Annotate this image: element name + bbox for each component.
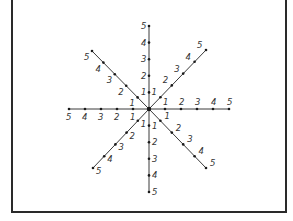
tick-label-south-east-3: 3 — [187, 134, 192, 144]
tick-dot-north-west-2 — [125, 85, 128, 88]
tick-dot-south-1 — [148, 124, 151, 127]
tick-label-south-west-4: 4 — [107, 154, 112, 164]
tick-label-east-3: 3 — [195, 97, 200, 107]
tick-label-east-1: 1 — [163, 97, 168, 107]
tick-dot-north-1 — [148, 91, 151, 94]
tick-dot-east-5 — [228, 108, 231, 111]
tick-label-south-4: 4 — [152, 170, 157, 180]
tick-dot-north-west-3 — [114, 73, 117, 76]
tick-label-west-2: 2 — [114, 112, 119, 122]
tick-dot-north-4 — [148, 41, 151, 44]
tick-label-north-east-5: 5 — [197, 40, 202, 50]
ray-south-east — [149, 109, 206, 168]
tick-dot-north-east-1 — [159, 96, 162, 99]
tick-label-north-2: 2 — [141, 71, 146, 81]
tick-dot-south-5 — [148, 191, 151, 194]
tick-dot-north-west-5 — [91, 50, 94, 53]
tick-label-west-1: 1 — [130, 112, 135, 122]
tick-label-north-5: 5 — [141, 21, 146, 31]
tick-label-north-west-3: 3 — [107, 75, 112, 85]
tick-label-east-4: 4 — [211, 97, 216, 107]
tick-label-north-west-1: 1 — [130, 98, 135, 108]
tick-label-south-west-5: 5 — [96, 166, 101, 176]
tick-label-north-3: 3 — [141, 54, 146, 64]
tick-dot-south-east-2 — [171, 131, 174, 134]
tick-label-west-5: 5 — [66, 112, 71, 122]
tick-label-east-5: 5 — [227, 97, 232, 107]
tick-dot-south-4 — [148, 174, 151, 177]
origin-dot — [147, 107, 151, 111]
tick-dot-south-west-4 — [103, 155, 106, 158]
tick-dot-north-3 — [148, 58, 151, 61]
tick-label-south-5: 5 — [152, 187, 157, 197]
tick-dot-west-5 — [68, 108, 71, 111]
tick-label-east-2: 2 — [179, 97, 184, 107]
tick-label-north-east-1: 1 — [151, 87, 156, 97]
tick-label-south-east-5: 5 — [210, 158, 215, 168]
tick-label-south-1: 1 — [152, 121, 157, 131]
tick-label-south-east-1: 1 — [164, 111, 169, 121]
tick-label-south-west-1: 1 — [141, 119, 146, 129]
tick-dot-south-3 — [148, 158, 151, 161]
tick-dot-south-east-1 — [159, 120, 162, 123]
number-star-diagram: 1234512345123451234512345123451234512345 — [0, 0, 293, 221]
tick-dot-north-east-5 — [205, 49, 208, 52]
tick-dot-east-3 — [196, 108, 199, 111]
tick-dot-south-east-4 — [193, 155, 196, 158]
tick-label-south-west-2: 2 — [130, 131, 135, 141]
tick-label-south-3: 3 — [152, 154, 157, 164]
tick-dot-west-3 — [100, 108, 103, 111]
tick-label-west-3: 3 — [98, 112, 103, 122]
tick-dot-south-west-1 — [137, 120, 140, 123]
tick-dot-north-east-4 — [193, 61, 196, 64]
tick-label-north-west-5: 5 — [84, 52, 89, 62]
tick-dot-east-4 — [212, 108, 215, 111]
tick-dot-north-east-3 — [182, 72, 185, 75]
tick-dot-north-west-1 — [136, 96, 139, 99]
tick-dot-north-west-4 — [102, 61, 105, 64]
tick-label-south-east-2: 2 — [176, 123, 181, 133]
tick-label-north-east-2: 2 — [163, 75, 168, 85]
tick-label-north-east-4: 4 — [186, 52, 191, 62]
tick-dot-south-east-3 — [182, 143, 185, 146]
tick-label-north-1: 1 — [141, 87, 146, 97]
tick-dot-north-2 — [148, 75, 151, 78]
tick-dot-west-4 — [84, 108, 87, 111]
tick-dot-south-2 — [148, 141, 151, 144]
tick-label-north-west-2: 2 — [118, 87, 123, 97]
tick-dot-north-east-2 — [171, 84, 174, 87]
tick-dot-south-west-5 — [92, 167, 95, 170]
tick-label-north-4: 4 — [141, 38, 146, 48]
tick-dot-east-2 — [180, 108, 183, 111]
tick-label-south-2: 2 — [152, 137, 157, 147]
tick-label-south-west-3: 3 — [118, 142, 123, 152]
tick-label-west-4: 4 — [82, 112, 87, 122]
tick-label-north-west-4: 4 — [95, 64, 100, 74]
tick-dot-south-west-3 — [114, 143, 117, 146]
tick-dot-west-2 — [116, 108, 119, 111]
tick-dot-south-west-2 — [125, 131, 128, 134]
tick-label-south-east-4: 4 — [199, 146, 204, 156]
tick-label-north-east-3: 3 — [174, 64, 179, 74]
tick-dot-south-east-5 — [205, 167, 208, 170]
tick-dot-north-5 — [148, 25, 151, 28]
